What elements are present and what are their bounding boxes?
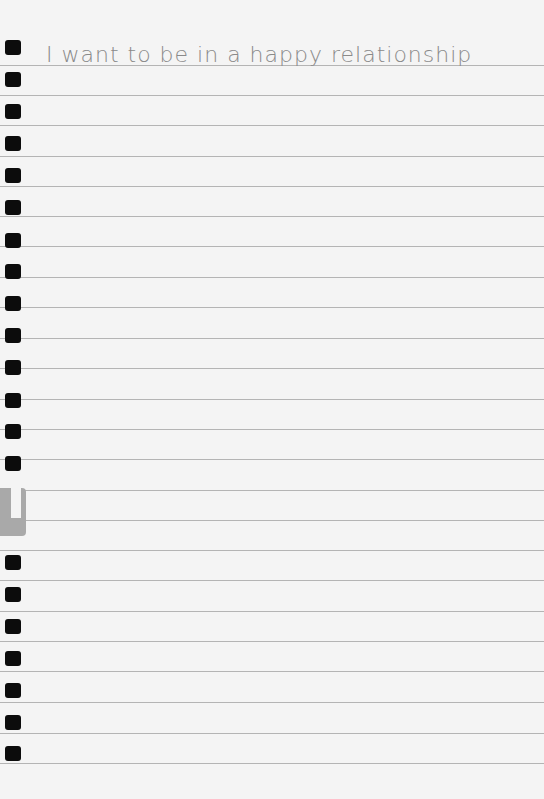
ruled-line <box>0 763 544 764</box>
punch-hole <box>5 72 21 87</box>
punch-hole <box>5 360 21 375</box>
punch-hole <box>5 424 21 439</box>
punch-hole <box>5 296 21 311</box>
ruled-line <box>0 307 544 308</box>
ruled-line <box>0 459 544 460</box>
punch-hole <box>5 555 21 570</box>
notebook-page: I want to be in a happy relationship <box>0 0 544 799</box>
punch-hole <box>5 587 21 602</box>
punch-hole <box>5 168 21 183</box>
ruled-line <box>0 95 544 96</box>
ruled-line <box>0 702 544 703</box>
ruled-line <box>0 338 544 339</box>
ruled-line <box>0 580 544 581</box>
ruled-line <box>0 399 544 400</box>
punch-hole <box>5 619 21 634</box>
punch-hole <box>5 715 21 730</box>
ruled-line <box>0 125 544 126</box>
ruled-line <box>0 246 544 247</box>
ruled-line <box>0 641 544 642</box>
ruled-line <box>0 611 544 612</box>
ruled-line <box>0 520 544 521</box>
ruled-line <box>0 671 544 672</box>
punch-hole <box>5 393 21 408</box>
ruled-line <box>0 490 544 491</box>
ruled-line <box>0 429 544 430</box>
punch-hole <box>5 746 21 761</box>
punch-hole <box>5 40 21 55</box>
ruled-line <box>0 156 544 157</box>
handwritten-text: I want to be in a happy relationship <box>46 43 472 67</box>
punch-hole <box>5 200 21 215</box>
punch-hole <box>5 328 21 343</box>
ruled-line <box>0 216 544 217</box>
ruled-line <box>0 277 544 278</box>
punch-hole <box>5 264 21 279</box>
punch-hole <box>5 683 21 698</box>
punch-hole <box>5 136 21 151</box>
punch-hole <box>5 104 21 119</box>
paper-tear-gap <box>11 488 21 518</box>
ruled-line <box>0 186 544 187</box>
ruled-line <box>0 550 544 551</box>
punch-hole <box>5 651 21 666</box>
punch-hole <box>5 456 21 471</box>
ruled-line <box>0 368 544 369</box>
ruled-line <box>0 733 544 734</box>
punch-hole <box>5 233 21 248</box>
